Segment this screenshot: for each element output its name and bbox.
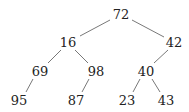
tree-node-98: 98 bbox=[88, 64, 105, 79]
tree-node-23: 23 bbox=[119, 93, 136, 108]
tree-edges bbox=[26, 20, 168, 92]
tree-node-87: 87 bbox=[68, 93, 85, 108]
tree-node-95: 95 bbox=[11, 93, 28, 108]
tree-edge-n40-n43 bbox=[152, 79, 160, 92]
tree-node-43: 43 bbox=[158, 93, 175, 108]
tree-edge-n72-n16 bbox=[80, 20, 110, 36]
tree-node-42: 42 bbox=[166, 35, 183, 50]
tree-edge-n16-n98 bbox=[75, 50, 88, 63]
tree-node-16: 16 bbox=[60, 35, 77, 50]
binary-tree-diagram: 72164269984095872343 bbox=[0, 0, 189, 112]
tree-node-72: 72 bbox=[113, 7, 130, 22]
tree-edge-n98-n87 bbox=[82, 79, 89, 92]
tree-node-69: 69 bbox=[32, 64, 49, 79]
tree-edge-n40-n23 bbox=[133, 79, 140, 92]
tree-nodes: 72164269984095872343 bbox=[11, 7, 183, 108]
tree-edge-n69-n95 bbox=[26, 79, 33, 92]
tree-edge-n42-n40 bbox=[154, 50, 168, 63]
tree-edge-n16-n69 bbox=[48, 50, 61, 63]
tree-edge-n72-n42 bbox=[132, 20, 164, 37]
tree-node-40: 40 bbox=[138, 64, 155, 79]
